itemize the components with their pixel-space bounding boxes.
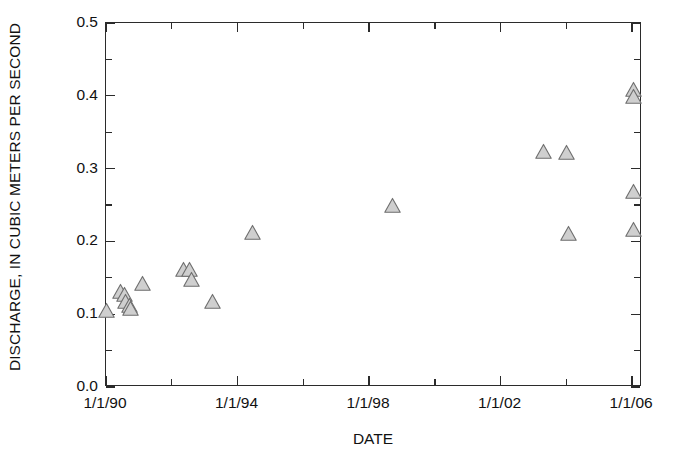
x-axis-tick [105, 376, 106, 385]
y-axis-tick-label: 0.5 [54, 13, 98, 31]
x-axis-tick-label: 1/1/02 [478, 394, 521, 412]
x-axis-minor-tick [171, 23, 172, 29]
x-axis-tick-label: 1/1/90 [83, 394, 126, 412]
y-axis-minor-tick [106, 132, 112, 133]
y-axis-tick [106, 386, 115, 387]
y-axis-minor-tick [106, 204, 112, 205]
y-axis-minor-tick [634, 277, 640, 278]
x-axis-tick [368, 376, 369, 385]
y-axis-tick [106, 168, 115, 169]
x-axis-tick-label: 1/1/06 [610, 394, 653, 412]
y-axis-tick-labels: 0.00.10.20.30.40.5 [50, 22, 98, 386]
y-axis-tick [106, 22, 115, 23]
plot-area [105, 22, 641, 386]
y-axis-minor-tick [634, 59, 640, 60]
x-axis-tick [105, 23, 106, 32]
x-axis-minor-tick [434, 23, 435, 29]
x-axis-tick-label: 1/1/94 [215, 394, 258, 412]
y-axis-tick-label: 0.0 [54, 377, 98, 395]
y-axis-tick-label: 0.3 [54, 159, 98, 177]
x-axis-tick [237, 376, 238, 385]
x-axis-tick [631, 23, 632, 32]
y-axis-title: DISCHARGE, IN CUBIC METERS PER SECOND [2, 2, 28, 392]
x-axis-tick [631, 376, 632, 385]
x-axis-tick [500, 376, 501, 385]
y-axis-tick-label: 0.2 [54, 231, 98, 249]
x-axis-tick [368, 23, 369, 32]
x-axis-tick [500, 23, 501, 32]
x-axis-minor-tick [434, 379, 435, 385]
y-axis-minor-tick [106, 59, 112, 60]
y-axis-minor-tick [106, 350, 112, 351]
x-axis-minor-tick [171, 379, 172, 385]
y-axis-tick [631, 386, 640, 387]
x-axis-minor-tick [303, 379, 304, 385]
x-axis-tick [237, 23, 238, 32]
y-axis-tick [106, 241, 115, 242]
x-axis-tick-labels: 1/1/901/1/941/1/981/1/021/1/06 [105, 394, 641, 416]
y-axis-tick-label: 0.4 [54, 86, 98, 104]
y-axis-minor-tick [634, 132, 640, 133]
y-axis-minor-tick [634, 350, 640, 351]
y-axis-minor-tick [106, 277, 112, 278]
y-axis-tick-label: 0.1 [54, 304, 98, 322]
x-axis-minor-tick [566, 379, 567, 385]
x-axis-tick-label: 1/1/98 [347, 394, 390, 412]
y-axis-tick [631, 241, 640, 242]
x-axis-minor-tick [303, 23, 304, 29]
y-axis-tick [631, 168, 640, 169]
y-axis-tick [631, 314, 640, 315]
y-axis-minor-tick [634, 204, 640, 205]
y-axis-tick [106, 95, 115, 96]
discharge-scatter-figure: DISCHARGE, IN CUBIC METERS PER SECOND 0.… [0, 0, 678, 458]
x-axis-minor-tick [566, 23, 567, 29]
x-axis-title: DATE [105, 430, 641, 448]
